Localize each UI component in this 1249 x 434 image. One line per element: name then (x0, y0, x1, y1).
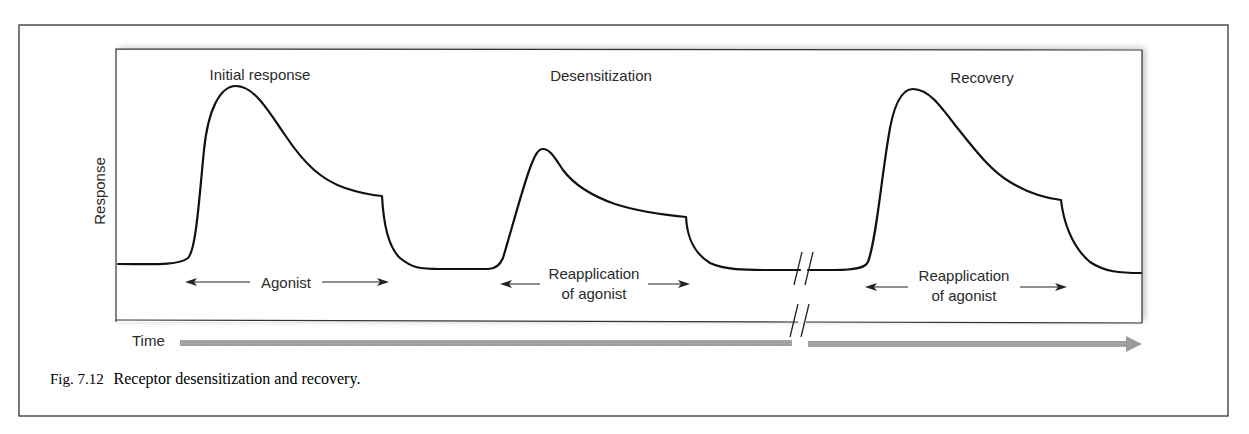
reapplication-label-1-line1: Reapplication (549, 265, 640, 282)
figure-caption: Fig. 7.12 Receptor desensitization and r… (50, 370, 360, 388)
caption-text: Receptor desensitization and recovery. (114, 370, 361, 388)
x-axis-label: Time (132, 332, 165, 349)
receptor-desensitization-figure: Response Initial response Desensitizatio… (0, 0, 1249, 434)
y-axis-label: Response (91, 157, 108, 225)
phase-title-desensitization: Desensitization (550, 67, 652, 84)
caption-label: Fig. 7.12 (50, 371, 104, 387)
reapplication-label-1-line2: of agonist (561, 285, 627, 302)
reapplication-label-2-line2: of agonist (931, 287, 997, 304)
phase-title-initial-response: Initial response (210, 66, 311, 83)
reapplication-label-2-line1: Reapplication (919, 267, 1010, 284)
phase-title-recovery: Recovery (950, 69, 1014, 86)
agonist-label: Agonist (261, 274, 312, 291)
